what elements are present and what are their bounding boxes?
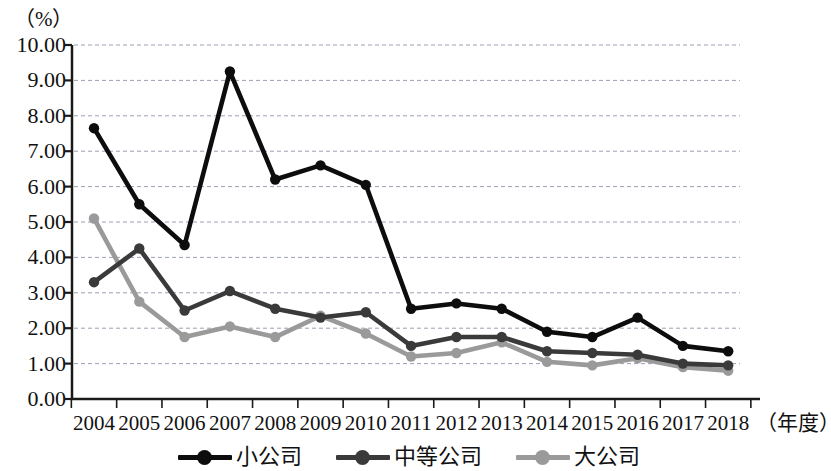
x-axis-ticks — [71, 399, 751, 408]
data-point — [134, 243, 144, 253]
legend-item[interactable]: 中等公司 — [336, 446, 482, 468]
data-point — [451, 332, 461, 342]
data-point — [497, 332, 507, 342]
x-tick-label: 2012 — [432, 413, 480, 434]
data-point — [632, 312, 642, 322]
data-point — [723, 346, 733, 356]
x-tick-label: 2006 — [161, 413, 209, 434]
legend-label: 大公司 — [574, 446, 640, 468]
data-point — [587, 332, 597, 342]
legend-label: 中等公司 — [394, 446, 482, 468]
data-point — [315, 312, 325, 322]
data-point — [361, 328, 371, 338]
x-tick-label: 2017 — [659, 413, 707, 434]
data-point — [134, 199, 144, 209]
x-tick-label: 2013 — [478, 413, 526, 434]
data-point — [451, 348, 461, 358]
data-point — [270, 304, 280, 314]
data-point — [542, 357, 552, 367]
data-point — [451, 298, 461, 308]
legend-item[interactable]: 大公司 — [516, 446, 640, 468]
data-point — [587, 360, 597, 370]
data-point — [632, 350, 642, 360]
x-tick-label: 2010 — [342, 413, 390, 434]
data-point — [270, 332, 280, 342]
x-axis-caption: （年度） — [756, 413, 831, 434]
data-point — [406, 351, 416, 361]
data-point — [678, 341, 688, 351]
x-tick-label: 2014 — [523, 413, 571, 434]
data-point — [497, 304, 507, 314]
data-point — [89, 277, 99, 287]
data-point — [89, 123, 99, 133]
x-tick-label: 2011 — [387, 413, 435, 434]
x-tick-label: 2005 — [115, 413, 163, 434]
chart-legend: 小公司中等公司大公司 — [0, 443, 817, 471]
data-point — [542, 346, 552, 356]
data-point — [361, 180, 371, 190]
x-tick-label: 2015 — [568, 413, 616, 434]
data-point — [723, 360, 733, 370]
x-tick-label: 2009 — [297, 413, 345, 434]
data-point — [89, 213, 99, 223]
data-point — [179, 332, 189, 342]
x-tick-label: 2007 — [206, 413, 254, 434]
x-tick-label: 2016 — [614, 413, 662, 434]
data-point — [587, 348, 597, 358]
data-point — [542, 327, 552, 337]
data-point — [134, 296, 144, 306]
data-point — [179, 305, 189, 315]
legend-item[interactable]: 小公司 — [178, 446, 302, 468]
data-series-layer — [89, 66, 734, 376]
legend-marker-icon — [336, 446, 390, 468]
data-point — [678, 358, 688, 368]
data-point — [406, 341, 416, 351]
x-tick-label: 2008 — [251, 413, 299, 434]
data-point — [361, 307, 371, 317]
data-point — [179, 240, 189, 250]
data-point — [315, 160, 325, 170]
data-point — [225, 286, 235, 296]
legend-marker-icon — [178, 446, 232, 468]
x-tick-label: 2004 — [70, 413, 118, 434]
data-point — [225, 321, 235, 331]
data-point — [270, 174, 280, 184]
data-point — [225, 66, 235, 76]
legend-marker-icon — [516, 446, 570, 468]
legend-label: 小公司 — [236, 446, 302, 468]
data-point — [406, 304, 416, 314]
x-tick-label: 2018 — [704, 413, 752, 434]
